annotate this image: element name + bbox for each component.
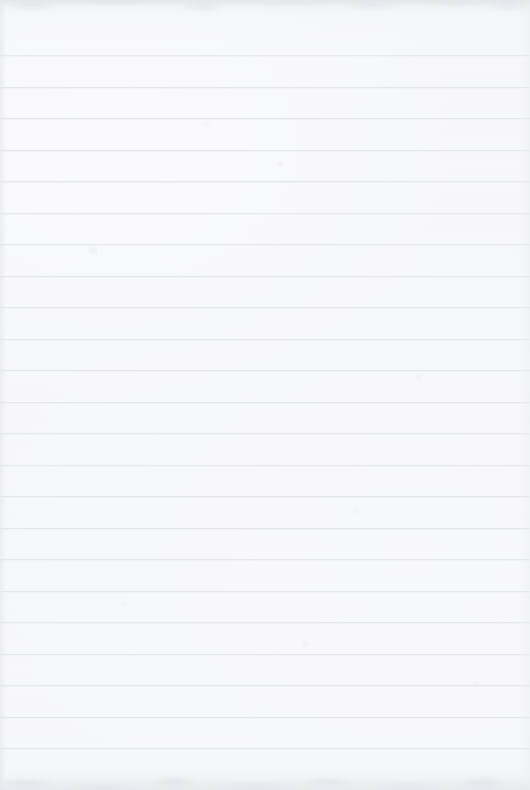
rule-line	[0, 181, 530, 182]
rule-line	[0, 717, 530, 718]
rule-line	[0, 402, 530, 403]
rule-line	[0, 370, 530, 371]
rule-line	[0, 339, 530, 340]
top-edge-shadow	[0, 0, 530, 16]
left-edge-shadow	[0, 0, 6, 790]
rule-line	[0, 433, 530, 434]
notebook-paper-sheet	[0, 0, 530, 790]
right-edge-shadow	[520, 0, 530, 790]
rule-line	[0, 276, 530, 277]
rule-line	[0, 528, 530, 529]
bottom-edge-shadow	[0, 764, 530, 790]
top-edge-mottle	[0, 0, 530, 22]
rule-line	[0, 654, 530, 655]
paper-smudge	[88, 243, 98, 257]
rule-line	[0, 118, 530, 119]
paper-smudge	[276, 160, 285, 168]
rule-line	[0, 559, 530, 560]
rule-line	[0, 465, 530, 466]
writing-area[interactable]	[0, 0, 530, 790]
rule-line	[0, 87, 530, 88]
rule-line	[0, 591, 530, 592]
rule-line	[0, 685, 530, 686]
bottom-edge-mottle	[0, 760, 530, 790]
paper-smudge	[352, 505, 361, 515]
rule-line	[0, 496, 530, 497]
paper-grain-texture	[0, 0, 530, 790]
paper-smudge	[300, 640, 310, 648]
rule-line	[0, 213, 530, 214]
ruled-lines-group	[0, 0, 530, 790]
paper-smudge	[120, 600, 128, 609]
rule-line	[0, 622, 530, 623]
rule-line	[0, 307, 530, 308]
paper-smudge	[415, 372, 423, 381]
paper-smudge	[470, 680, 481, 687]
rule-line	[0, 748, 530, 749]
paper-smudge	[200, 120, 212, 127]
rule-line	[0, 55, 530, 56]
rule-line	[0, 150, 530, 151]
rule-line	[0, 244, 530, 245]
